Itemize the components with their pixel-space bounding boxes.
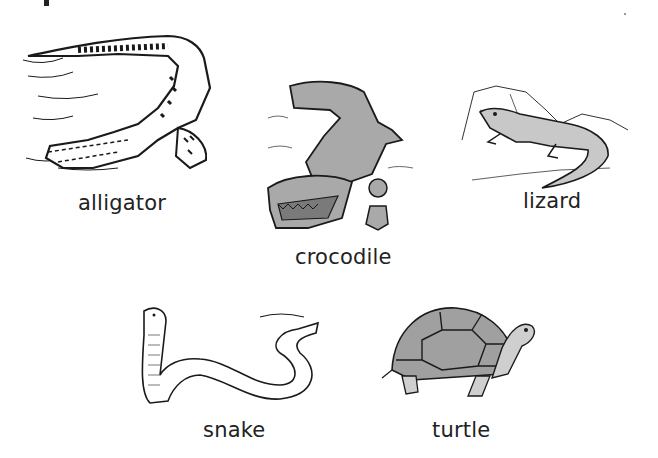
animal-card-turtle: turtle: [382, 300, 542, 445]
animal-card-alligator: alligator: [18, 28, 233, 228]
animal-label-lizard: lizard: [523, 189, 581, 213]
corner-mark: [624, 13, 626, 15]
animal-card-lizard: lizard: [460, 80, 650, 220]
turtle-icon: [382, 300, 542, 400]
animal-label-snake: snake: [203, 418, 265, 442]
animal-label-turtle: turtle: [432, 418, 490, 442]
animal-label-crocodile: crocodile: [295, 245, 392, 269]
animal-label-alligator: alligator: [78, 191, 166, 215]
cropped-heading-fragment: [44, 0, 49, 6]
alligator-icon: [18, 28, 233, 178]
snake-icon: [130, 305, 330, 405]
crocodile-icon: [268, 78, 418, 238]
lizard-icon: [460, 80, 650, 195]
animal-card-crocodile: crocodile: [268, 78, 418, 278]
animal-card-snake: snake: [130, 305, 330, 445]
